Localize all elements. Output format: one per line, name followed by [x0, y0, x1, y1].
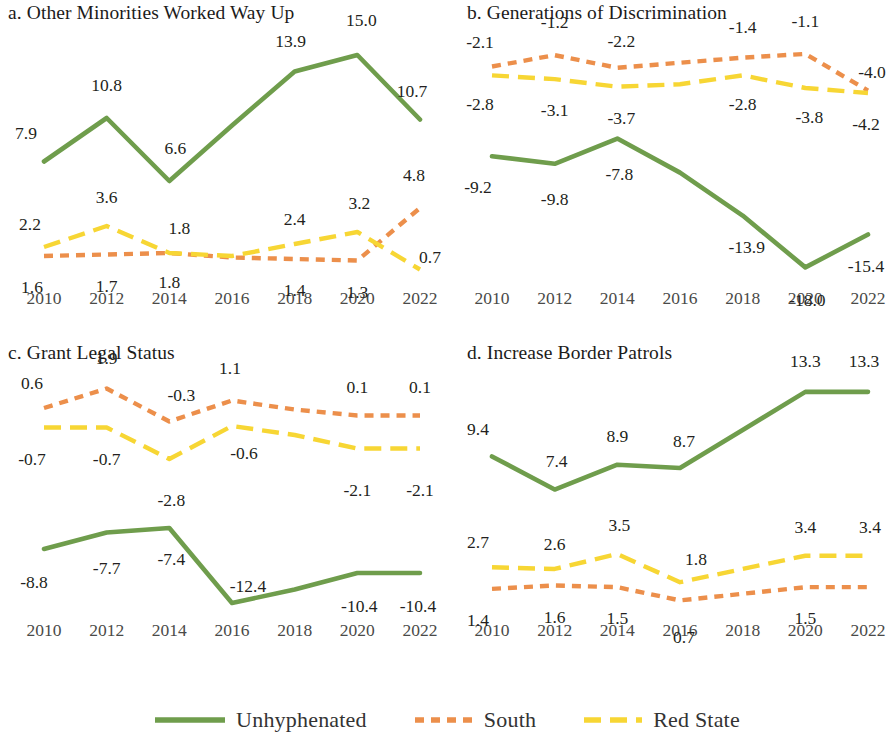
data-label: 1.3 [346, 282, 368, 303]
panel-c: c. Grant Legal Status 201020122014201620… [0, 340, 446, 674]
data-label: 4.8 [403, 165, 425, 186]
data-label: 9.4 [467, 419, 489, 440]
data-label: 1.8 [168, 218, 190, 239]
chart-legend: UnhyphenatedSouthRed State [0, 700, 893, 740]
data-label: 3.5 [608, 515, 630, 536]
data-label: 1.5 [794, 608, 816, 629]
data-label: 2.2 [19, 214, 41, 235]
series-line-south [492, 586, 868, 601]
figure-root: a. Other Minorities Worked Way Up 201020… [0, 0, 893, 748]
data-label: -8.8 [20, 572, 48, 593]
data-label: 1.4 [467, 610, 489, 631]
data-label: -15.4 [848, 256, 884, 277]
data-label: -12.4 [230, 576, 266, 597]
x-tick-label: 2022 [403, 620, 438, 641]
data-label: -4.2 [852, 114, 880, 135]
x-tick-label: 2014 [600, 288, 635, 309]
data-label: -3.7 [607, 108, 635, 129]
panel-c-x-axis: 2010201220142016201820202022 [0, 620, 446, 646]
data-label: -1.2 [541, 12, 569, 33]
data-label: -4.0 [858, 62, 886, 83]
data-label: 2.4 [284, 209, 306, 230]
data-label: -9.8 [541, 189, 569, 210]
data-label: -2.8 [157, 490, 185, 511]
x-tick-label: 2010 [27, 620, 62, 641]
legend-entry-south[interactable]: South [413, 707, 536, 733]
series-line-unhyphenated [44, 55, 420, 181]
x-tick-label: 2012 [89, 620, 124, 641]
x-tick-label: 2022 [851, 620, 886, 641]
data-label: 10.8 [91, 75, 122, 96]
series-line-red-state [44, 226, 420, 270]
legend-entry-unhyphenated[interactable]: Unhyphenated [153, 707, 367, 733]
data-label: 1.8 [158, 272, 180, 293]
data-label: 15.0 [346, 10, 377, 31]
data-label: -10.4 [400, 596, 436, 617]
data-label: 2.7 [467, 532, 489, 553]
panel-a-plot [0, 0, 446, 334]
data-label: 13.3 [849, 351, 880, 372]
data-label: -0.6 [230, 443, 258, 464]
data-label: -13.9 [728, 237, 764, 258]
data-label: 0.6 [21, 373, 43, 394]
x-tick-label: 2016 [215, 620, 250, 641]
data-label: 13.3 [790, 351, 821, 372]
legend-swatch-icon [153, 713, 227, 727]
data-label: 3.2 [348, 193, 370, 214]
panel-a: a. Other Minorities Worked Way Up 201020… [0, 0, 446, 334]
legend-entry-red-state[interactable]: Red State [582, 707, 740, 733]
legend-swatch-icon [413, 713, 475, 727]
data-label: -10.4 [341, 596, 377, 617]
data-label: -1.4 [729, 17, 757, 38]
data-label: -0.3 [167, 385, 195, 406]
x-tick-label: 2014 [152, 620, 187, 641]
data-label: 2.6 [544, 534, 566, 555]
data-label: 1.8 [685, 549, 707, 570]
x-tick-label: 2010 [475, 288, 510, 309]
data-label: 6.6 [164, 138, 186, 159]
data-label: -7.7 [93, 558, 121, 579]
x-tick-label: 2018 [725, 288, 760, 309]
panel-a-x-axis: 2010201220142016201820202022 [0, 288, 446, 314]
data-label: 1.5 [606, 608, 628, 629]
data-label: -2.8 [729, 94, 757, 115]
data-label: -2.1 [406, 480, 434, 501]
panel-d-x-axis: 2010201220142016201820202022 [447, 620, 893, 646]
legend-label: Unhyphenated [236, 707, 367, 733]
data-label: 7.9 [15, 123, 37, 144]
data-label: -0.7 [18, 449, 46, 470]
x-tick-label: 2018 [277, 620, 312, 641]
panel-b-plot [447, 0, 893, 334]
data-label: 7.4 [546, 451, 568, 472]
data-label: -2.2 [607, 31, 635, 52]
data-label: 1.4 [284, 280, 306, 301]
data-label: 1.9 [96, 348, 118, 369]
data-label: -7.4 [157, 549, 185, 570]
data-label: -2.1 [343, 480, 371, 501]
data-label: 0.1 [346, 377, 368, 398]
x-tick-label: 2016 [215, 288, 250, 309]
data-label: 0.1 [409, 377, 431, 398]
data-label: -0.7 [93, 449, 121, 470]
series-line-south [44, 208, 420, 261]
legend-label: South [484, 707, 536, 733]
data-label: -2.1 [466, 32, 494, 53]
data-label: 1.1 [219, 358, 241, 379]
data-label: -9.2 [464, 177, 492, 198]
data-label: -18.0 [789, 290, 825, 311]
data-label: 8.7 [673, 431, 695, 452]
data-label: 0.7 [673, 627, 695, 648]
panel-b-lines [447, 0, 893, 334]
panel-d: d. Increase Border Patrols 2010201220142… [447, 340, 893, 674]
data-label: -3.1 [541, 100, 569, 121]
legend-swatch-icon [582, 713, 644, 727]
x-tick-label: 2016 [663, 288, 698, 309]
legend-label: Red State [653, 707, 740, 733]
data-label: 8.9 [606, 426, 628, 447]
data-label: 10.7 [397, 81, 428, 102]
series-line-red-state [492, 554, 868, 582]
data-label: 3.6 [96, 187, 118, 208]
x-tick-label: 2020 [340, 620, 375, 641]
x-tick-label: 2012 [537, 288, 572, 309]
data-label: 1.6 [21, 277, 43, 298]
